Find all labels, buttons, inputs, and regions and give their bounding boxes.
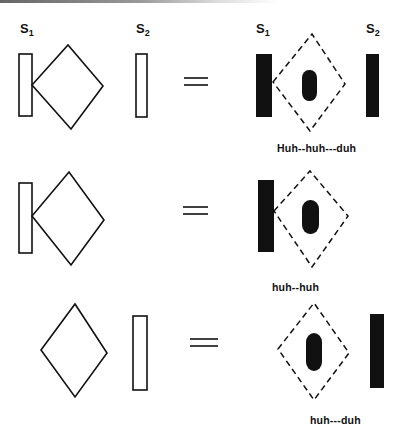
row1-caption: Huh--huh---duh <box>277 142 356 154</box>
row1-s2-bar <box>136 54 147 117</box>
row2-equals-icon <box>183 207 208 214</box>
row1-s1-bar <box>19 54 32 116</box>
row3-caption: huh---duh <box>310 414 361 426</box>
row3-left-figure <box>41 304 147 397</box>
row2-s1-bar <box>19 183 32 253</box>
row1-diamond <box>32 45 103 129</box>
row2-s1-filled-bar <box>258 180 274 252</box>
row1-s1-filled-bar <box>256 54 272 117</box>
diagram-canvas <box>0 0 398 442</box>
row1-s2-filled-bar <box>366 54 379 117</box>
row3-s2-filled-bar <box>370 314 384 388</box>
row1-left-figure <box>19 45 147 129</box>
row1-equals-icon <box>184 78 208 85</box>
row2-left-figure <box>19 172 104 265</box>
row2-caption: huh--huh <box>272 281 319 293</box>
row3-center-blob <box>306 333 322 371</box>
row2-center-blob <box>302 200 319 234</box>
row2-diamond <box>32 172 104 265</box>
row3-diamond <box>41 304 107 397</box>
row3-s2-bar <box>133 316 147 390</box>
row1-center-blob <box>302 70 317 101</box>
row3-equals-icon <box>190 339 218 346</box>
